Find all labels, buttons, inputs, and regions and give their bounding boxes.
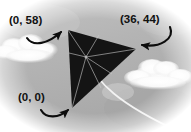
coordinate-label-top-right: (36, 44) [120, 14, 160, 26]
haze-patch [102, 83, 134, 101]
coordinate-label-top-left: (0, 58) [9, 15, 42, 27]
kite-coordinate-diagram: (0, 58) (36, 44) (0, 0) [0, 0, 191, 132]
coordinate-label-origin: (0, 0) [18, 92, 45, 104]
kite-center-hub [85, 56, 88, 59]
